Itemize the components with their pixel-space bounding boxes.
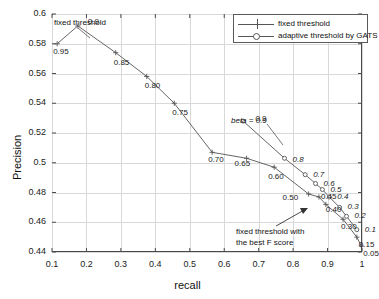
gridline-horizontal xyxy=(53,74,361,75)
gridline-horizontal xyxy=(53,163,361,164)
data-point-label: 0.2 xyxy=(355,211,366,220)
x-axis-tick-label: 1 xyxy=(347,259,377,269)
x-axis-tick-label: 0.7 xyxy=(244,259,274,269)
data-point-label: 0.3 xyxy=(348,202,359,211)
x-axis-title: recall xyxy=(0,279,375,291)
data-point-label: 0.80 xyxy=(145,81,161,90)
gridline-vertical xyxy=(155,15,156,251)
gridline-horizontal xyxy=(53,252,361,253)
y-axis-tick-label: 0.46 xyxy=(2,216,46,226)
x-axis-tick-label: 0.4 xyxy=(140,259,170,269)
gridline-vertical xyxy=(190,15,191,251)
y-axis-title: Precision xyxy=(11,135,23,180)
data-point-label: 0.30 xyxy=(341,222,357,231)
gridline-vertical xyxy=(224,15,225,251)
x-axis-tick-label: 0.9 xyxy=(313,259,343,269)
x-axis-tick-label: 0.5 xyxy=(175,259,205,269)
annotation-best-f-score-line2: the best F score xyxy=(236,238,293,248)
data-point-label: 0.95 xyxy=(53,47,69,56)
y-axis-tick-label: 0.56 xyxy=(2,68,46,78)
y-axis-tick-label: 0.6 xyxy=(2,8,46,18)
data-point-label: 0.50 xyxy=(283,193,299,202)
x-axis-tick-label: 0.1 xyxy=(37,259,67,269)
gridline-horizontal xyxy=(53,44,361,45)
gridline-vertical xyxy=(293,15,294,251)
legend-plus-marker-icon xyxy=(238,19,274,29)
gridline-horizontal xyxy=(53,133,361,134)
annotation-beta: beta = 0.9 xyxy=(231,116,267,126)
data-point-label: 0.8 xyxy=(293,155,304,164)
data-point-label: 0.7 xyxy=(313,170,324,179)
legend-label-adaptive-threshold: adaptive threshold by GATS xyxy=(278,31,377,40)
annotation-fixed-threshold: fixed threshold xyxy=(54,18,106,28)
data-point-label: 0.05 xyxy=(363,249,379,258)
data-point-label: 0.65 xyxy=(235,159,251,168)
x-axis-tick-label: 0.6 xyxy=(209,259,239,269)
x-axis-tick-label: 0.3 xyxy=(106,259,136,269)
data-point-label: 0.75 xyxy=(172,108,188,117)
data-point-label: 0.70 xyxy=(208,155,224,164)
gridline-vertical xyxy=(86,15,87,251)
y-axis-tick-label: 0.5 xyxy=(2,157,46,167)
legend-entry-adaptive-threshold: adaptive threshold by GATS xyxy=(238,29,377,42)
gridline-horizontal xyxy=(53,222,361,223)
data-point-label: 0.60 xyxy=(268,172,284,181)
chart-legend: fixed threshold adaptive threshold by GA… xyxy=(233,14,368,43)
data-point-label: 0.40 xyxy=(326,205,342,214)
data-point-label: 0.85 xyxy=(114,58,130,67)
data-point-label: 0.1 xyxy=(365,225,376,234)
plot-area xyxy=(52,14,362,252)
y-axis-tick-label: 0.48 xyxy=(2,187,46,197)
legend-label-fixed-threshold: fixed threshold xyxy=(278,19,330,28)
gridline-horizontal xyxy=(53,193,361,194)
y-axis-tick-label: 0.44 xyxy=(2,246,46,256)
data-point-label: 0.15 xyxy=(359,240,375,249)
gridline-vertical xyxy=(259,15,260,251)
y-axis-tick-label: 0.52 xyxy=(2,127,46,137)
gridline-horizontal xyxy=(53,103,361,104)
gridline-vertical xyxy=(328,15,329,251)
legend-circle-marker-icon xyxy=(238,31,274,41)
x-axis-tick-label: 0.2 xyxy=(71,259,101,269)
x-axis-tick-label: 0.8 xyxy=(278,259,308,269)
y-axis-tick-label: 0.58 xyxy=(2,38,46,48)
y-axis-tick-label: 0.54 xyxy=(2,97,46,107)
annotation-best-f-score-line1: fixed threshold with xyxy=(236,227,304,237)
gridline-vertical xyxy=(121,15,122,251)
data-point-label: 0.4 xyxy=(337,192,348,201)
